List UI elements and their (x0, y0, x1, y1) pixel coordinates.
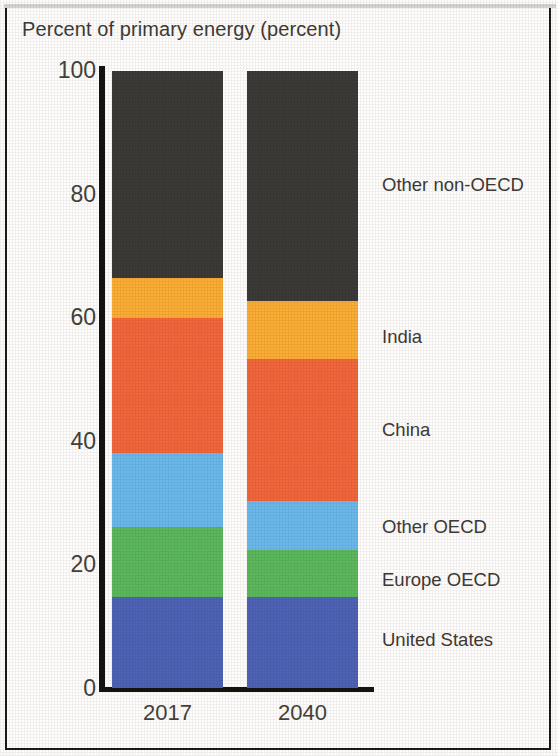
bar-segment (247, 597, 358, 688)
legend-label-other-oecd: Other OECD (382, 516, 487, 538)
stacked-bar (112, 70, 223, 688)
bar-segment (247, 71, 358, 301)
plot-area: 020406080100 20172040 Other non-OECDIndi… (0, 0, 558, 756)
y-axis-line (99, 66, 105, 692)
bar-segment (112, 453, 223, 528)
bar-segment (247, 550, 358, 597)
bar-segment (247, 301, 358, 359)
legend-label-china: China (382, 419, 430, 441)
y-axis-tick-label: 40 (22, 427, 96, 454)
y-axis-tick-label: 20 (22, 551, 96, 578)
y-axis-tick-label: 60 (22, 304, 96, 331)
x-axis-label: 2040 (247, 700, 358, 726)
y-axis-tick-label: 80 (22, 180, 96, 207)
bar-segment (112, 597, 223, 688)
y-axis-tick-label: 100 (22, 57, 96, 84)
y-axis-tick-label: 0 (22, 675, 96, 702)
bar-segment (112, 527, 223, 597)
legend-label-other-non-oecd: Other non-OECD (382, 174, 524, 196)
legend-label-europe-oecd: Europe OECD (382, 569, 500, 591)
bar-segment (247, 501, 358, 550)
x-axis-label: 2017 (112, 700, 223, 726)
bar-segment (247, 359, 358, 502)
bar-segment (112, 318, 223, 452)
chart-figure: Percent of primary energy (percent) 0204… (0, 0, 558, 756)
stacked-bar (247, 70, 358, 688)
legend-label-united-states: United States (382, 629, 493, 651)
bar-segment (112, 71, 223, 278)
bar-segment (112, 278, 223, 319)
legend-label-india: India (382, 326, 422, 348)
